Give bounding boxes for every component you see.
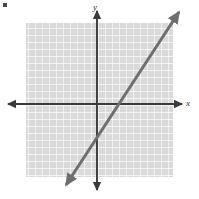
grid-background — [26, 23, 173, 177]
plot-canvas — [0, 0, 199, 199]
x-axis-label: x — [186, 99, 190, 108]
coordinate-plane-figure: x y — [0, 0, 199, 199]
y-axis-label: y — [93, 3, 97, 12]
